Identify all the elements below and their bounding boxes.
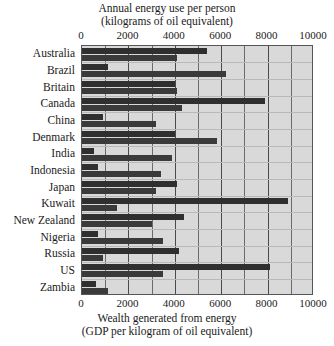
chart-title: Annual energy use per person (kilograms … [0, 2, 334, 28]
tick-label-10000: 10000 [299, 297, 327, 309]
tick-label-8000: 8000 [256, 297, 278, 309]
bar-indonesia-wealth [82, 171, 161, 177]
row-separator [82, 196, 312, 197]
row-separator [82, 146, 312, 147]
tick-label-8000: 8000 [256, 29, 278, 41]
category-label-zambia: Zambia [40, 281, 75, 293]
bar-australia-wealth [82, 55, 177, 61]
tick-label-2000: 2000 [116, 29, 138, 41]
bar-us-wealth [82, 271, 163, 277]
category-label-indonesia: Indonesia [30, 164, 75, 176]
bar-india-wealth [82, 155, 172, 161]
bar-new-zealand-wealth [82, 221, 152, 227]
tick-label-4000: 4000 [163, 297, 185, 309]
tick-label-0: 0 [78, 297, 84, 309]
category-label-britain: Britain [43, 81, 75, 93]
bar-new-zealand-energy [82, 214, 184, 220]
category-label-denmark: Denmark [32, 131, 75, 143]
category-label-us: US [60, 264, 75, 276]
bar-india-energy [82, 148, 94, 154]
energy-wealth-chart: Annual energy use per person (kilograms … [0, 0, 334, 346]
row-separator [82, 162, 312, 163]
bar-denmark-energy [82, 131, 175, 137]
bar-australia-energy [82, 48, 207, 54]
bar-japan-energy [82, 181, 177, 187]
bar-zambia-wealth [82, 288, 108, 294]
bar-denmark-wealth [82, 138, 217, 144]
tick-label-2000: 2000 [116, 297, 138, 309]
row-separator [82, 62, 312, 63]
gridline-4000 [175, 46, 176, 294]
category-label-kuwait: Kuwait [41, 197, 75, 209]
bar-japan-wealth [82, 188, 156, 194]
bar-canada-energy [82, 98, 265, 104]
bar-russia-energy [82, 248, 179, 254]
bar-britain-energy [82, 81, 175, 87]
chart-title-line-2: (kilograms of oil equivalent) [0, 15, 334, 28]
gridline-9000 [291, 46, 292, 294]
tick-label-6000: 6000 [209, 297, 231, 309]
bar-brazil-energy [82, 64, 108, 70]
category-label-china: China [48, 114, 75, 126]
tick-label-10000: 10000 [299, 29, 327, 41]
row-separator [82, 96, 312, 97]
tick-label-4000: 4000 [163, 29, 185, 41]
bar-china-wealth [82, 121, 156, 127]
chart-title-line-1: Annual energy use per person [0, 2, 334, 15]
bar-russia-wealth [82, 255, 103, 261]
row-separator [82, 79, 312, 80]
category-label-nigeria: Nigeria [41, 231, 75, 243]
category-label-new-zealand: New Zealand [13, 214, 75, 226]
category-label-canada: Canada [41, 97, 75, 109]
category-label-india: India [51, 147, 75, 159]
row-separator [82, 229, 312, 230]
category-label-japan: Japan [49, 181, 75, 193]
bar-kuwait-wealth [82, 205, 117, 211]
chart-footer-line-1: Wealth generated from energy [0, 312, 334, 325]
bar-indonesia-energy [82, 164, 98, 170]
category-label-russia: Russia [44, 247, 75, 259]
gridline-7000 [244, 46, 245, 294]
bar-kuwait-energy [82, 198, 288, 204]
row-separator [82, 212, 312, 213]
bar-zambia-energy [82, 281, 96, 287]
chart-footer-label: Wealth generated from energy (GDP per ki… [0, 312, 334, 338]
category-label-australia: Australia [33, 47, 75, 59]
bar-brazil-wealth [82, 71, 226, 77]
row-separator [82, 112, 312, 113]
category-axis-labels: AustraliaBrazilBritainCanadaChinaDenmark… [0, 45, 78, 295]
gridline-8000 [268, 46, 269, 294]
bar-canada-wealth [82, 105, 182, 111]
top-axis-tick-labels: 0200040006000800010000 [0, 29, 334, 42]
bar-nigeria-energy [82, 231, 98, 237]
chart-footer-line-2: (GDP per kilogram of oil equivalent) [0, 325, 334, 338]
row-separator [82, 129, 312, 130]
row-separator [82, 246, 312, 247]
row-separator [82, 279, 312, 280]
bar-nigeria-wealth [82, 238, 163, 244]
bottom-axis-tick-labels: 0200040006000800010000 [0, 297, 334, 310]
gridline-6000 [221, 46, 222, 294]
bar-britain-wealth [82, 88, 177, 94]
category-label-brazil: Brazil [47, 64, 75, 76]
tick-label-0: 0 [78, 29, 84, 41]
bar-us-energy [82, 264, 270, 270]
gridline-5000 [198, 46, 199, 294]
plot-area [81, 45, 313, 295]
bar-china-energy [82, 114, 103, 120]
row-separator [82, 179, 312, 180]
tick-label-6000: 6000 [209, 29, 231, 41]
row-separator [82, 262, 312, 263]
